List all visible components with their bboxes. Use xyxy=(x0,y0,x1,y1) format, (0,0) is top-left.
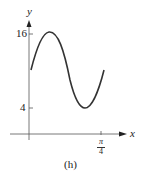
y-axis-label: y xyxy=(27,6,32,17)
y-tick-label-4: 4 xyxy=(20,102,26,113)
denominator: 4 xyxy=(96,148,106,156)
sinusoid-curve xyxy=(31,32,104,108)
x-tick-label-pi-over-4: π 4 xyxy=(96,138,106,156)
x-axis-label: x xyxy=(130,128,135,139)
y-tick-label-16: 16 xyxy=(16,28,27,39)
x-axis-arrow-icon xyxy=(119,132,127,137)
y-axis-arrow-icon xyxy=(27,20,32,27)
numerator: π xyxy=(96,138,106,146)
figure-caption: (h) xyxy=(64,159,77,170)
